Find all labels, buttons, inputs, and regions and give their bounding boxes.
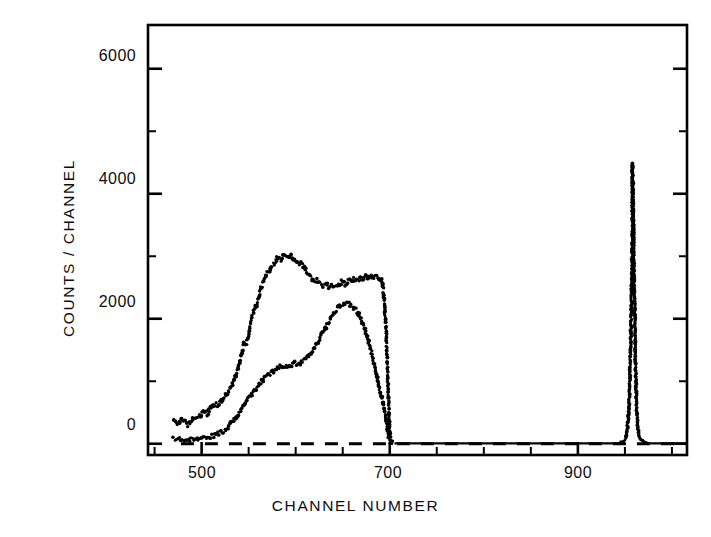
data-point (188, 439, 192, 443)
data-point (387, 414, 390, 417)
data-point (313, 346, 317, 350)
data-point (352, 276, 355, 279)
data-point (326, 282, 330, 286)
data-point (258, 293, 261, 296)
data-point (364, 327, 367, 330)
x-tick-label-500: 500 (167, 464, 237, 482)
data-point (387, 403, 390, 406)
data-point (366, 334, 370, 338)
x-axis-title: CHANNEL NUMBER (0, 497, 711, 515)
data-point (212, 436, 216, 440)
data-point (359, 275, 362, 278)
data-point (357, 311, 361, 315)
data-point (386, 370, 390, 374)
y-axis-title: COUNTS / CHANNEL (60, 83, 78, 413)
data-point (387, 393, 390, 396)
data-point (628, 358, 631, 361)
data-point (239, 359, 242, 362)
y-tick-label-0: 0 (62, 416, 136, 434)
data-point (342, 280, 346, 284)
data-point (387, 430, 391, 434)
data-point (383, 306, 387, 310)
data-point (385, 348, 388, 351)
data-point (227, 390, 230, 393)
data-point (325, 327, 329, 331)
data-point (254, 388, 258, 392)
x-tick-label-700: 700 (353, 464, 423, 482)
data-point (362, 322, 365, 325)
data-point (217, 404, 220, 407)
data-point (261, 286, 264, 289)
series-upper-spectrum (172, 253, 394, 445)
data-point (248, 326, 251, 329)
data-point (365, 329, 368, 332)
data-point (210, 433, 213, 436)
data-point (382, 286, 385, 289)
data-point (307, 355, 310, 358)
data-point (245, 343, 248, 346)
data-point (385, 341, 388, 344)
data-point (178, 436, 181, 439)
data-point (378, 386, 381, 389)
data-point (235, 372, 239, 376)
data-point (200, 414, 203, 417)
data-point (335, 310, 338, 313)
chart-figure: CHANNEL NUMBER COUNTS / CHANNEL 6000 400… (0, 0, 711, 537)
data-point (237, 367, 241, 371)
data-point (384, 321, 387, 324)
data-point (385, 421, 389, 425)
data-point (208, 410, 211, 413)
data-point (251, 316, 254, 319)
data-point (387, 427, 390, 430)
data-point (386, 367, 389, 370)
data-point (261, 380, 265, 384)
series-calibration-peak (619, 161, 648, 444)
data-point (376, 376, 380, 380)
data-point (293, 360, 297, 364)
data-point (346, 281, 350, 285)
data-point (386, 384, 389, 387)
data-point (256, 301, 259, 304)
data-point (367, 339, 371, 343)
data-point (371, 357, 374, 360)
data-point (268, 374, 271, 377)
data-point (354, 306, 357, 309)
data-point (321, 285, 325, 289)
axis-ticks (148, 69, 687, 455)
data-point (186, 425, 189, 428)
data-point (280, 257, 284, 261)
data-point (237, 414, 240, 417)
data-point (209, 436, 213, 440)
data-point (387, 407, 390, 410)
data-point (350, 303, 353, 306)
data-point (217, 433, 221, 437)
data-point (289, 253, 293, 257)
data-point (215, 401, 218, 404)
data-point (391, 440, 394, 443)
data-point (386, 356, 389, 359)
data-point (360, 316, 363, 319)
data-point (645, 441, 648, 444)
data-point (301, 262, 304, 265)
data-point (383, 409, 387, 413)
data-point (634, 363, 637, 366)
data-point (242, 349, 245, 352)
data-point (251, 394, 254, 397)
data-series-group (171, 161, 648, 445)
data-point (386, 419, 389, 422)
data-point (300, 361, 303, 364)
y-tick-label-4000: 4000 (62, 170, 136, 188)
data-point (290, 365, 294, 369)
data-point (305, 267, 308, 270)
data-point (370, 349, 373, 352)
x-tick-label-900: 900 (543, 464, 613, 482)
plot-area (0, 0, 711, 537)
data-point (387, 396, 391, 400)
data-point (380, 396, 384, 400)
series-lower-spectrum (171, 300, 394, 445)
data-point (265, 274, 268, 277)
y-tick-label-6000: 6000 (62, 47, 136, 65)
data-point (372, 277, 375, 280)
data-point (315, 277, 319, 281)
data-point (373, 362, 377, 366)
